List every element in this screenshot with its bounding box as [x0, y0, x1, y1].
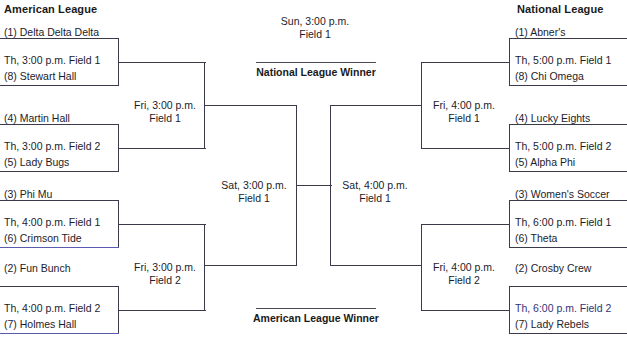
semifinal-left-field: Field 1 — [211, 192, 297, 205]
matchbox-edge-top — [0, 124, 119, 125]
team-left-0-bottom: (8) Stewart Hall — [4, 70, 76, 82]
matchbox-edge-right — [118, 124, 119, 172]
semifinal-left-time: Sat, 3:00 p.m. — [211, 179, 297, 192]
final-connector — [296, 185, 332, 186]
matchbox-edge-top — [509, 38, 627, 39]
team-right-2-top: (3) Women's Soccer — [515, 188, 610, 200]
matchbox-edge-top — [509, 124, 627, 125]
match-left-3-info: Th, 4:00 p.m. Field 2 — [4, 302, 100, 314]
qf-right-top-field: Field 1 — [423, 112, 505, 125]
match-right-2-info: Th, 6:00 p.m. Field 1 — [515, 216, 611, 228]
team-right-0-bottom: (8) Chi Omega — [515, 70, 584, 82]
team-right-1-top: (4) Lucky Eights — [515, 112, 590, 124]
team-left-0-top: (1) Delta Delta Delta — [4, 26, 99, 38]
matchbox-edge-left — [509, 38, 510, 86]
match-left-1-info: Th, 3:00 p.m. Field 2 — [4, 140, 100, 152]
semifinal-right-top-arm — [330, 105, 422, 106]
qf-right-top-lower-arm — [421, 148, 509, 149]
final-game-field: Field 1 — [255, 28, 375, 41]
matchbox-edge-top — [509, 286, 627, 287]
team-right-0-top: (1) Abner's — [515, 26, 565, 38]
qf-left-top-lower-arm — [118, 148, 206, 149]
qf-right-bottom-field: Field 2 — [423, 274, 505, 287]
matchbox-edge-bottom — [0, 85, 119, 86]
team-right-3-top: (2) Crosby Crew — [515, 262, 591, 274]
match-left-0-info: Th, 3:00 p.m. Field 1 — [4, 54, 100, 66]
matchbox-edge-left — [509, 286, 510, 334]
matchbox-edge-left — [509, 200, 510, 248]
final-game-time: Sun, 3:00 p.m. — [255, 15, 375, 28]
matchbox-edge-top — [0, 200, 119, 201]
qf-right-bottom-lower-arm — [421, 310, 509, 311]
team-left-1-bottom: (5) Lady Bugs — [4, 156, 69, 168]
qf-right-bottom-upper-arm — [421, 224, 509, 225]
team-left-2-top: (3) Phi Mu — [4, 188, 52, 200]
semifinal-right-bottom-arm — [330, 265, 422, 266]
matchbox-edge-bottom — [509, 171, 627, 172]
qf-left-bottom-time: Fri, 3:00 p.m. — [124, 261, 206, 274]
qf-left-bottom-field: Field 2 — [124, 274, 206, 287]
matchbox-edge-right — [118, 38, 119, 86]
matchbox-edge-bottom — [0, 247, 119, 248]
semifinal-right-time: Sat, 4:00 p.m. — [332, 179, 418, 192]
league-header-national: National League — [517, 3, 603, 15]
qf-right-bottom-time: Fri, 4:00 p.m. — [423, 261, 505, 274]
matchbox-edge-top — [509, 200, 627, 201]
team-left-1-top: (4) Martin Hall — [4, 112, 70, 124]
national-league-winner-label: National League Winner — [246, 66, 386, 78]
matchbox-edge-right — [118, 286, 119, 334]
qf-right-top-upper-arm — [421, 62, 509, 63]
qf-left-bottom-upper-arm — [118, 224, 206, 225]
semifinal-right-field: Field 1 — [332, 192, 418, 205]
matchbox-edge-bottom — [509, 247, 627, 248]
match-right-1-info: Th, 5:00 p.m. Field 2 — [515, 140, 611, 152]
match-left-2-info: Th, 4:00 p.m. Field 1 — [4, 216, 100, 228]
matchbox-edge-right — [118, 200, 119, 248]
team-left-3-bottom: (7) Holmes Hall — [4, 318, 76, 330]
team-left-2-bottom: (6) Crimson Tide — [4, 232, 82, 244]
qf-left-top-time: Fri, 3:00 p.m. — [124, 99, 206, 112]
qf-left-top-field: Field 1 — [124, 112, 206, 125]
matchbox-edge-top — [0, 38, 119, 39]
qf-right-top-time: Fri, 4:00 p.m. — [423, 99, 505, 112]
american-winner-rule — [256, 308, 376, 309]
matchbox-edge-bottom — [509, 333, 627, 334]
semifinal-left-bottom-arm — [205, 265, 297, 266]
team-right-1-bottom: (5) Alpha Phi — [515, 156, 575, 168]
match-right-3-info: Th, 6:00 p.m. Field 2 — [515, 302, 611, 314]
matchbox-edge-top — [0, 286, 119, 287]
american-league-winner-label: American League Winner — [246, 312, 386, 324]
team-right-3-bottom: (7) Lady Rebels — [515, 318, 589, 330]
tournament-bracket: American League National League Sun, 3:0… — [0, 0, 627, 343]
semifinal-left-top-arm — [205, 105, 297, 106]
qf-left-bottom-lower-arm — [118, 310, 206, 311]
team-left-3-top: (2) Fun Bunch — [4, 262, 71, 274]
matchbox-edge-bottom — [509, 85, 627, 86]
matchbox-edge-bottom — [0, 171, 119, 172]
match-right-0-info: Th, 5:00 p.m. Field 1 — [515, 54, 611, 66]
team-right-2-bottom: (6) Theta — [515, 232, 557, 244]
national-winner-rule — [256, 62, 376, 63]
league-header-american: American League — [4, 3, 97, 15]
matchbox-edge-left — [509, 124, 510, 172]
qf-left-top-upper-arm — [118, 62, 206, 63]
matchbox-edge-bottom — [0, 333, 119, 334]
